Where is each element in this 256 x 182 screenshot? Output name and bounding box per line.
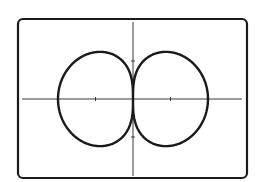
polar-plot xyxy=(0,0,256,182)
